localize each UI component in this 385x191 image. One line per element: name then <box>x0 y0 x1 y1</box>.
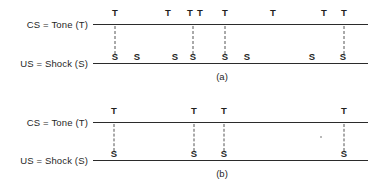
tone-mark: T <box>221 106 227 116</box>
panel-caption: (a) <box>216 71 228 82</box>
pairing-connector <box>344 124 345 151</box>
tone-mark: T <box>321 8 327 18</box>
shock-mark: S <box>309 52 315 62</box>
shock-mark: S <box>172 52 178 62</box>
pairing-connector <box>114 124 115 151</box>
shock-mark: S <box>134 52 140 62</box>
tone-mark: T <box>191 106 197 116</box>
cs-timeline-axis <box>93 122 368 123</box>
tone-mark: T <box>112 8 118 18</box>
us-row-label: US = Shock (S) <box>0 58 88 69</box>
pairing-connector <box>225 26 226 54</box>
scan-artifact <box>320 136 322 138</box>
tone-mark: T <box>222 8 228 18</box>
pairing-connector <box>344 26 345 54</box>
us-timeline-axis <box>93 63 368 64</box>
pairing-connector <box>194 124 195 151</box>
us-row-label: US = Shock (S) <box>0 155 88 166</box>
us-timeline-axis <box>93 160 368 161</box>
tone-mark: T <box>111 106 117 116</box>
tone-mark: T <box>341 8 347 18</box>
tone-mark: T <box>187 8 193 18</box>
pairing-connector <box>115 26 116 54</box>
pairing-connector <box>224 124 225 151</box>
cs-row-label: CS = Tone (T) <box>0 19 88 30</box>
cs-row-label: CS = Tone (T) <box>0 117 88 128</box>
tone-mark: T <box>341 106 347 116</box>
pairing-connector <box>193 26 194 54</box>
tone-mark: T <box>165 8 171 18</box>
conditioning-timeline-figure: CS = Tone (T)TTTTTTTTUS = Shock (S)SSSSS… <box>0 0 385 191</box>
panel-caption: (b) <box>216 168 228 179</box>
tone-mark: T <box>197 8 203 18</box>
cs-timeline-axis <box>93 24 368 25</box>
tone-mark: T <box>270 8 276 18</box>
shock-mark: S <box>244 52 250 62</box>
